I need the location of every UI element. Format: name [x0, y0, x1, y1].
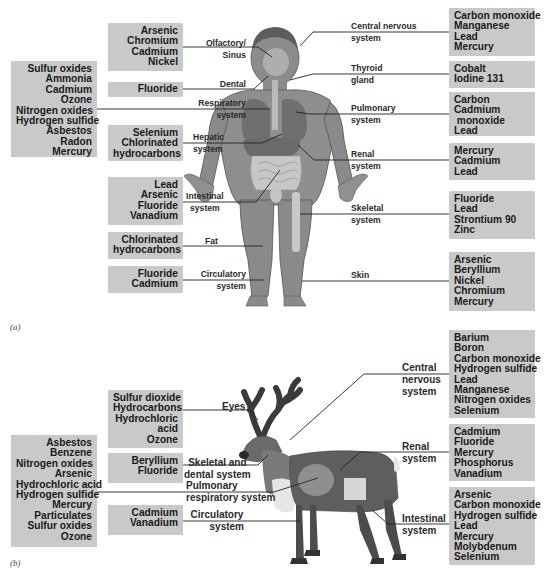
organ-label-cns-b: Centralnervoussystem	[402, 362, 441, 398]
contaminant: Iodine 131	[454, 74, 530, 84]
box-hepatic: Selenium Chlorinated hydrocarbons	[108, 125, 183, 161]
box-intestinal-b: Arsenic Carbon monoxide Hydrogen sulfide…	[449, 487, 535, 565]
contaminant: Zinc	[454, 225, 530, 235]
contaminant: Ozone	[16, 532, 92, 542]
organ-label-intestinal: Intestinalsystem	[186, 190, 224, 214]
contaminant: hydrocarbons	[113, 245, 178, 255]
organ-label-skin: Skin	[351, 269, 369, 281]
contaminant: Fluoride	[113, 466, 178, 476]
contaminant: Mercury	[454, 42, 530, 52]
contaminant: Selenium	[454, 552, 530, 562]
box-olfactory: Arsenic Chromium Cadmium Nickel	[108, 23, 183, 71]
organ-label-renal-b: Renalsystem	[402, 441, 436, 465]
box-renal-b: Cadmium Fluoride Mercury Phosphorus Vana…	[449, 424, 535, 481]
box-intestinal: Lead Arsenic Fluoride Vanadium	[108, 177, 183, 225]
box-cns-b: Barium Boron Carbon monoxide Hydrogen su…	[449, 330, 535, 418]
box-fat: Chlorinated hydrocarbons	[108, 232, 183, 259]
organ-label-respiratory: Respiratorysystem	[190, 97, 246, 121]
contaminant: Lead	[454, 126, 530, 136]
organ-label-skeletal-dental: Skeletal anddental system	[184, 457, 251, 481]
box-cns: Carbon monoxide Manganese Lead Mercury	[449, 8, 535, 56]
contaminant: Mercury	[16, 147, 92, 157]
box-thyroid: Cobalt Iodine 131	[449, 61, 535, 88]
organ-label-renal: Renalsystem	[351, 148, 381, 172]
contaminant: hydrocarbons	[113, 149, 178, 159]
contaminant: Nickel	[113, 57, 178, 67]
organ-label-thyroid: Thyroidgland	[351, 62, 383, 86]
organ-label-fat: Fat	[205, 235, 218, 247]
organ-label-pulmonary-b: Pulmonaryrespiratory system	[186, 480, 276, 504]
box-skeletal-dental: Beryllium Fluoride	[108, 453, 183, 483]
contaminant: Selenium	[454, 406, 530, 416]
human-figure	[184, 27, 368, 306]
contaminant: Fluoride	[113, 84, 178, 94]
organ-label-circulatory-b: Circulatorysystem	[190, 509, 244, 533]
contaminant: Cadmium	[113, 279, 178, 289]
organ-label-circulatory: Circulatorysystem	[195, 268, 246, 292]
organ-label-dental: Dental	[198, 78, 246, 90]
contaminant: Vanadium	[113, 518, 178, 528]
box-pulmonary-b: Asbestos Benzene Nitrogen oxides Arsenic…	[11, 435, 97, 547]
panel-label-b: (b)	[10, 558, 21, 568]
panel-label-a: (a)	[10, 322, 21, 332]
organ-label-skeletal: Skeletalsystem	[351, 202, 384, 226]
box-skeletal: Fluoride Lead Strontium 90 Zinc	[449, 191, 535, 239]
organ-label-eyes: Eyes	[222, 401, 245, 413]
organ-label-hepatic: Hepaticsystem	[193, 131, 224, 155]
reindeer-figure	[239, 380, 406, 564]
contaminant: Vanadium	[454, 469, 530, 479]
organ-label-pulmonary: Pulmonarysystem	[351, 102, 395, 126]
box-respiratory: Sulfur oxides Ammonia Cadmium Ozone Nitr…	[11, 61, 97, 157]
contaminant: Lead	[454, 167, 530, 177]
box-pulmonary: Carbon Cadmium monoxide Lead	[449, 92, 535, 136]
organ-label-intestinal-b: Intestinalsystem	[402, 513, 446, 537]
contaminant: Ozone	[113, 435, 178, 445]
organ-label-olfactory: Olfactory/Sinus	[198, 37, 246, 61]
box-circulatory-b: Cadmium Vanadium	[108, 505, 183, 535]
box-skin: Arsenic Beryllium Nickel Chromium Mercur…	[449, 252, 535, 311]
box-eyes: Sulfur dioxide Hydrocarbons Hydrochloric…	[108, 390, 183, 448]
organ-label-cns: Central nervoussystem	[351, 20, 416, 44]
contaminant: Vanadium	[113, 211, 178, 221]
box-dental: Fluoride	[108, 82, 183, 97]
box-renal: Mercury Cadmium Lead	[449, 143, 535, 180]
box-circulatory: Fluoride Cadmium	[108, 266, 183, 293]
contaminant: Mercury	[454, 297, 530, 307]
